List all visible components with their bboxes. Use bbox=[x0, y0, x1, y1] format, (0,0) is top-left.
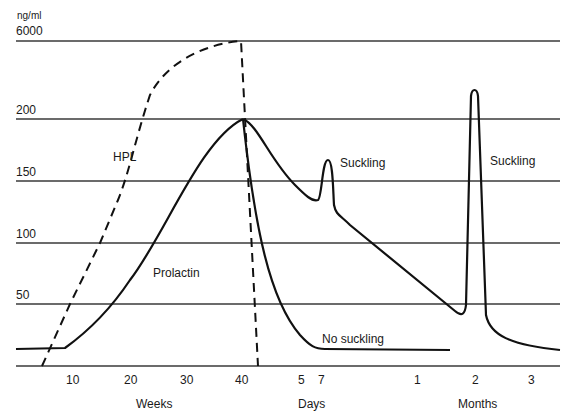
x-axis-title-weeks: Weeks bbox=[136, 397, 172, 411]
no-suckling-curve bbox=[243, 119, 450, 350]
annotation-hpl: HPL bbox=[113, 150, 137, 164]
y-tick-150: 150 bbox=[16, 165, 36, 179]
x-axis-title-days: Days bbox=[298, 397, 325, 411]
prolactin-hpl-chart: ng/ml 6000 200 150 100 50 HPL Prolactin … bbox=[0, 0, 573, 420]
y-unit-label: ng/ml bbox=[17, 10, 41, 21]
y-tick-6000: 6000 bbox=[16, 24, 43, 38]
x-tick-month-2: 2 bbox=[472, 373, 479, 387]
x-tick-week-20: 20 bbox=[124, 373, 138, 387]
hpl-curve bbox=[42, 41, 258, 366]
x-tick-week-30: 30 bbox=[180, 373, 194, 387]
x-axis-title-months: Months bbox=[458, 397, 497, 411]
x-tick-week-40: 40 bbox=[235, 373, 249, 387]
annotation-prolactin: Prolactin bbox=[153, 266, 200, 280]
annotation-suckling-days: Suckling bbox=[340, 156, 385, 170]
y-tick-200: 200 bbox=[16, 103, 36, 117]
x-tick-week-10: 10 bbox=[66, 373, 80, 387]
annotation-no-suckling: No suckling bbox=[322, 332, 384, 346]
y-tick-50: 50 bbox=[16, 288, 30, 302]
annotation-suckling-months: Suckling bbox=[490, 154, 535, 168]
suckling-curve bbox=[243, 90, 560, 350]
y-tick-100: 100 bbox=[16, 227, 36, 241]
x-tick-day-7: 7 bbox=[318, 373, 325, 387]
x-tick-month-3: 3 bbox=[528, 373, 535, 387]
x-tick-month-1: 1 bbox=[414, 373, 421, 387]
x-tick-day-5: 5 bbox=[298, 373, 305, 387]
